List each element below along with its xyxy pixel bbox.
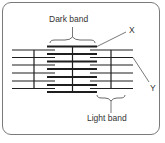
y-leader <box>133 58 149 83</box>
light-band-brace <box>97 95 125 101</box>
dark-band-brace <box>50 37 95 43</box>
y-label: Y <box>150 84 156 93</box>
x-label: X <box>129 26 135 35</box>
light-band-label: Light band <box>87 114 127 123</box>
x-leader <box>97 32 126 47</box>
dark-band-label: Dark band <box>49 15 88 24</box>
